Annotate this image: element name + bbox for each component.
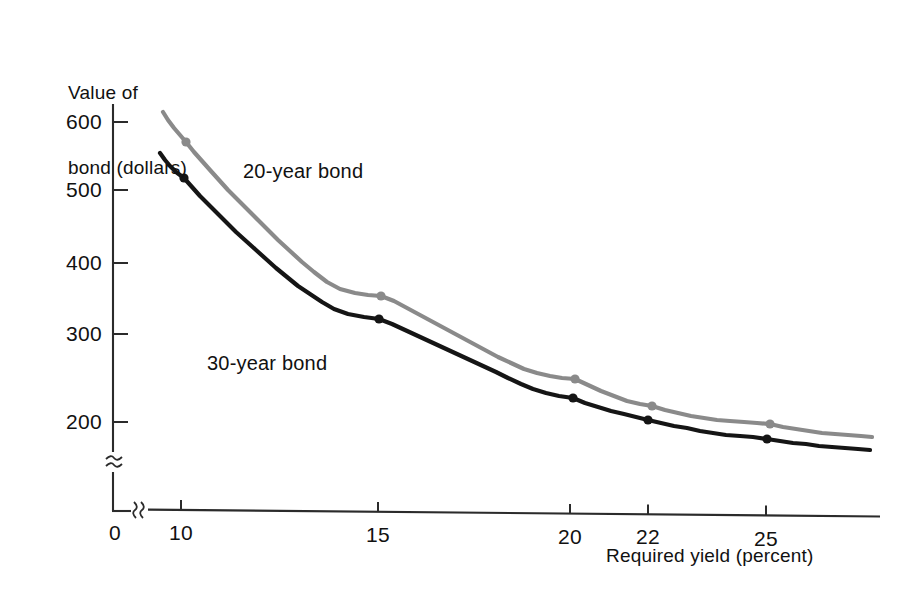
x-tick-label-25: 25 — [743, 527, 789, 551]
marker-30y-yield-22 — [643, 415, 652, 424]
data-point-markers-30-year-bond — [179, 173, 771, 443]
y-axis-break-icon — [106, 456, 122, 467]
x-axis-break-icon — [133, 502, 144, 518]
marker-30y-yield-25 — [762, 434, 771, 443]
x-tick-label-10: 10 — [158, 521, 204, 545]
axis-lines — [112, 104, 880, 517]
y-axis-title-line-1: Value of — [68, 80, 187, 105]
x-axis-line — [148, 510, 880, 517]
y-tick-label-500: 500 — [46, 178, 102, 202]
x-tick-label-15: 15 — [355, 523, 401, 547]
marker-20y-yield-15 — [376, 291, 385, 300]
bond-value-chart-figure: Value of bond (dollars) Required yield (… — [0, 0, 910, 602]
x-tick-label-0: 0 — [92, 521, 138, 545]
series-label-20-year-bond: 20-year bond — [243, 160, 363, 183]
marker-20y-yield-22 — [647, 401, 656, 410]
marker-30y-yield-20 — [568, 393, 577, 402]
y-tick-label-400: 400 — [46, 251, 102, 275]
y-axis-title-line-2: bond (dollars) — [68, 155, 187, 180]
y-tick-label-300: 300 — [46, 322, 102, 346]
marker-30y-yield-15 — [374, 314, 383, 323]
x-tick-label-20: 20 — [547, 525, 593, 549]
curve-30-year-bond — [160, 153, 870, 450]
marker-20y-yield-20 — [570, 374, 579, 383]
series-label-30-year-bond: 30-year bond — [207, 352, 327, 375]
x-tick-label-22: 22 — [625, 525, 671, 549]
y-tick-label-600: 600 — [46, 110, 102, 134]
marker-20y-yield-25 — [765, 419, 774, 428]
y-tick-label-200: 200 — [46, 410, 102, 434]
